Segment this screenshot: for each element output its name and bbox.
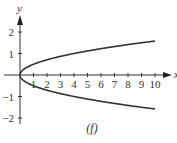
y-tick-label: 1 xyxy=(9,48,15,60)
x-axis-arrow-icon xyxy=(163,72,172,78)
y-tick-label: 2 xyxy=(9,26,15,38)
x-tick-label: 5 xyxy=(85,78,91,90)
chart-canvas: 12345678910 21−1−2 x y (f) xyxy=(0,0,177,143)
figure-caption: (f) xyxy=(86,121,97,135)
y-tick-label: −2 xyxy=(2,112,14,124)
x-tick-label: 7 xyxy=(112,78,118,90)
x-tick-label: 8 xyxy=(125,78,131,90)
y-axis-arrow-icon xyxy=(17,15,23,25)
x-tick-label: 4 xyxy=(71,78,77,90)
y-axis-label: y xyxy=(16,2,22,14)
x-tick-label: 2 xyxy=(44,78,50,90)
x-tick-label: 9 xyxy=(139,78,145,90)
x-tick-label: 6 xyxy=(98,78,104,90)
x-tick-label: 3 xyxy=(58,78,64,90)
x-axis-label: x xyxy=(173,68,177,80)
curve-upper-branch xyxy=(20,41,155,75)
y-tick-label: −1 xyxy=(2,91,14,103)
x-tick-label: 1 xyxy=(31,78,37,90)
x-ticks: 12345678910 xyxy=(31,73,161,90)
x-tick-label: 10 xyxy=(150,78,162,90)
